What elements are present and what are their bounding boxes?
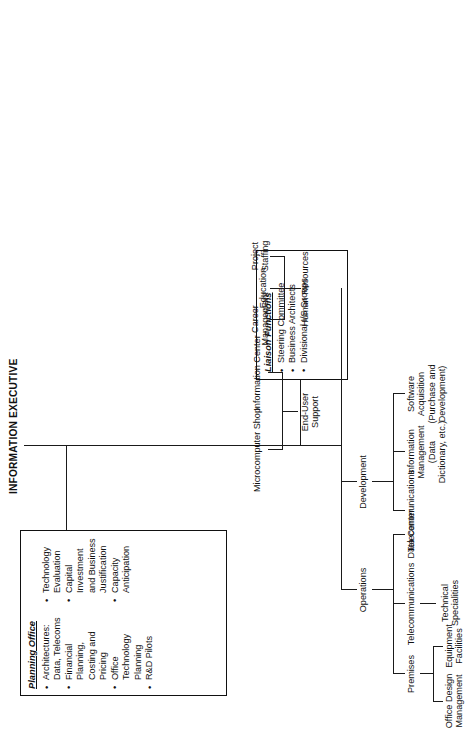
- level1-bus: [341, 289, 342, 590]
- planning-office-title: Planning Office: [27, 537, 37, 689]
- drop-development: [341, 481, 357, 482]
- node-development: Development: [358, 438, 368, 526]
- planning-office-box: Planning Office Architectures: Data, Tel…: [20, 530, 227, 696]
- node-technical-specialities: Technical Specialities: [440, 572, 461, 634]
- end-user-child-bus: [282, 372, 283, 450]
- planning-office-item: Capital Investment and Business Justific…: [64, 537, 110, 602]
- drop-office-design: [433, 701, 443, 702]
- planning-office-item: Technology Evaluation: [41, 537, 64, 602]
- node-end-user-support: End-User Support: [300, 378, 321, 446]
- ops-telecom-child-bus: [435, 603, 436, 604]
- drop-premises: [393, 673, 405, 674]
- liaison-functions-item: Business Architects: [287, 259, 298, 372]
- planning-office-item: Financial Planning, Costing and Pricing: [64, 610, 110, 689]
- development-child-bus: [393, 393, 394, 511]
- drop-project-staffing: [270, 256, 285, 257]
- ops-telecom-subspine: [420, 603, 436, 604]
- root-spine: [24, 445, 342, 446]
- node-information-management: Information Management (Data Dictionary,…: [406, 418, 447, 486]
- drop-operations-telecom: [393, 603, 405, 604]
- operations-subspine: [372, 589, 394, 590]
- operations-child-bus: [393, 534, 394, 674]
- end-user-subspine: [282, 411, 298, 412]
- planning-office-item: R&D Pilots: [144, 610, 155, 689]
- drop-data-center: [393, 534, 405, 535]
- premises-child-bus: [433, 646, 434, 702]
- drop-software-acquisition: [393, 393, 405, 394]
- node-project-staffing: Project Staffing: [250, 226, 271, 286]
- node-office-design-management: Office Design Management: [444, 670, 465, 732]
- liaison-functions-item: Steering Committee: [276, 259, 287, 372]
- drop-education: [270, 288, 285, 289]
- drop-human-resources: [341, 288, 342, 289]
- drop-dev-telecom: [393, 510, 405, 511]
- node-software-acquisition: Software Acquisition (Purchase and Devel…: [406, 360, 447, 428]
- page-title: INFORMATION EXECUTIVE: [8, 359, 19, 494]
- node-operations-telecommunications: Telecommunications: [406, 550, 416, 658]
- planning-office-item: Office Technology Planning: [110, 610, 144, 689]
- drop-career-management: [270, 319, 285, 320]
- planning-office-item: Capacity Anticipation: [110, 537, 133, 602]
- node-human-resources: Human Resources: [300, 242, 310, 336]
- human-resources-subspine: [284, 288, 301, 289]
- development-subspine: [372, 481, 394, 482]
- drop-microcomputer-shop: [268, 449, 283, 450]
- drop-end-user-support: [341, 411, 342, 412]
- drop-operations: [341, 589, 357, 590]
- drop-information-center: [268, 372, 283, 373]
- premises-subspine: [420, 673, 434, 674]
- node-operations: Operations: [358, 546, 368, 634]
- connector-planning-office: [66, 445, 67, 533]
- planning-office-item: Architectures: Data, Telecoms: [41, 610, 64, 689]
- drop-equipment-facilities: [433, 646, 443, 647]
- drop-information-management: [393, 451, 405, 452]
